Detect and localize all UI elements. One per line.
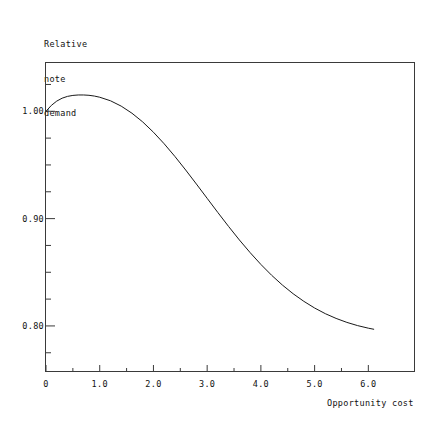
- plot-area: [0, 0, 430, 421]
- chart-figure: Relative note demand 01.02.03.04.05.06.0…: [0, 0, 430, 421]
- x-tick-label: 3.0: [192, 379, 222, 389]
- y-tick-label: 0.90: [12, 214, 44, 224]
- data-curve: [46, 95, 374, 329]
- x-axis-label: Opportunity cost: [327, 398, 414, 408]
- y-tick-label: 0.80: [12, 321, 44, 331]
- plot-frame: [46, 63, 415, 372]
- x-axis-ticks: [46, 365, 368, 371]
- x-tick-label: 0: [31, 379, 61, 389]
- x-tick-label: 2.0: [138, 379, 168, 389]
- x-tick-label: 5.0: [300, 379, 330, 389]
- y-tick-label: 1.00: [12, 106, 44, 116]
- x-tick-label: 6.0: [353, 379, 383, 389]
- x-tick-label: 1.0: [85, 379, 115, 389]
- x-tick-label: 4.0: [246, 379, 276, 389]
- y-axis-ticks: [46, 84, 55, 352]
